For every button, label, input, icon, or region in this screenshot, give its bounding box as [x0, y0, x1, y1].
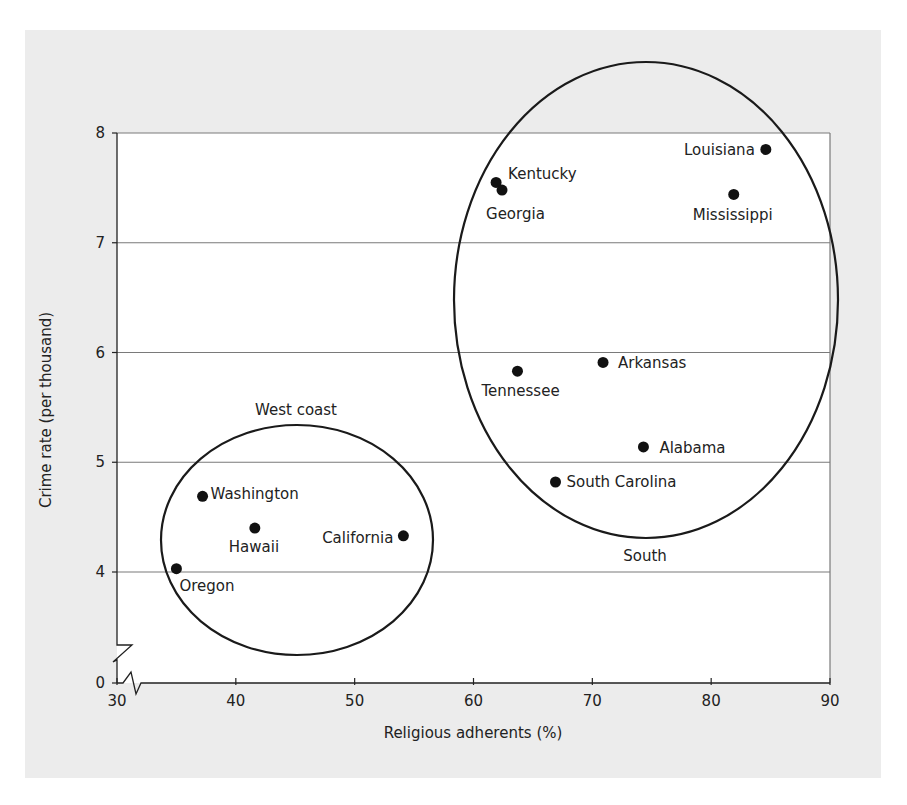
- scatter-chart: 045678 30405060708090 West coastSouth Or…: [0, 0, 907, 805]
- y-tick-label: 8: [95, 124, 105, 142]
- point-label: South Carolina: [566, 473, 676, 491]
- point-marker: [550, 477, 561, 488]
- point-label: Alabama: [659, 439, 725, 457]
- point-marker: [512, 366, 523, 377]
- y-axis-title: Crime rate (per thousand): [37, 312, 55, 508]
- point-label: Louisiana: [684, 141, 755, 159]
- data-point: South Carolina: [550, 473, 677, 491]
- point-label: Georgia: [486, 205, 545, 223]
- x-tick-label: 90: [820, 692, 839, 710]
- point-label: Tennessee: [480, 382, 559, 400]
- x-tick-label: 30: [107, 692, 126, 710]
- x-tick-label: 70: [583, 692, 602, 710]
- point-label: Mississippi: [693, 206, 773, 224]
- y-tick-label: 6: [95, 344, 105, 362]
- point-marker: [728, 189, 739, 200]
- point-marker: [197, 491, 208, 502]
- x-tick-label: 50: [345, 692, 364, 710]
- y-axis-ticks: 045678: [95, 124, 117, 692]
- group-label: West coast: [255, 401, 337, 419]
- point-label: Oregon: [179, 577, 234, 595]
- point-marker: [398, 530, 409, 541]
- y-tick-label: 0: [95, 674, 105, 692]
- data-point: Washington: [197, 485, 299, 503]
- point-marker: [638, 441, 649, 452]
- y-tick-label: 7: [95, 234, 105, 252]
- group-label: South: [623, 547, 667, 565]
- x-tick-label: 40: [226, 692, 245, 710]
- x-tick-label: 80: [702, 692, 721, 710]
- caption-cut-off: [90, 798, 510, 805]
- y-tick-label: 4: [95, 563, 105, 581]
- point-marker: [598, 357, 609, 368]
- point-label: California: [322, 529, 393, 547]
- x-axis-title: Religious adherents (%): [384, 724, 563, 742]
- point-marker: [760, 144, 771, 155]
- x-tick-label: 60: [464, 692, 483, 710]
- point-marker: [171, 563, 182, 574]
- point-marker: [497, 185, 508, 196]
- point-label: Hawaii: [229, 538, 279, 556]
- point-marker: [249, 523, 260, 534]
- point-label: Arkansas: [618, 354, 687, 372]
- point-label: Washington: [211, 485, 299, 503]
- y-tick-label: 5: [95, 453, 105, 471]
- point-label: Kentucky: [508, 165, 577, 183]
